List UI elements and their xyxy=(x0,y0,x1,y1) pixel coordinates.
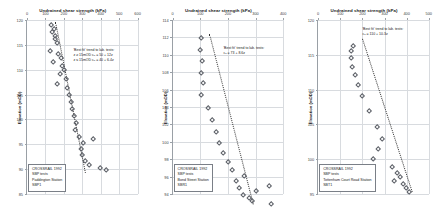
chart-2-data-point xyxy=(249,198,255,204)
chart-2-y-tick-label: 94 xyxy=(164,192,168,197)
chart-1-y-tick xyxy=(25,95,28,96)
chart-2-hgrid xyxy=(173,20,284,21)
chart-panel-bond-street: Undrained shear strength (kPa) Elevation… xyxy=(146,0,292,216)
chart-2-vgrid xyxy=(283,20,284,194)
chart-2-y-tick xyxy=(170,159,173,160)
annotation-line: cᵤ = 110 + 10.3z xyxy=(362,32,403,37)
chart-2-y-tick-label: 114 xyxy=(162,18,168,23)
chart-3-y-tick xyxy=(316,159,319,160)
chart-2-hgrid xyxy=(173,194,284,195)
chart-2-hgrid xyxy=(173,124,284,125)
chart-3-hgrid xyxy=(318,20,429,21)
chart-1-x-tick-label: 200 xyxy=(61,11,68,16)
chart-1-x-axis-title: Undrained shear strength (kPa) xyxy=(0,8,146,13)
chart-2-y-tick xyxy=(170,20,173,21)
chart-1-hgrid xyxy=(27,194,138,195)
chart-2-y-tick-label: 96 xyxy=(164,174,168,179)
chart-2-x-tick-label: 400 xyxy=(280,11,287,16)
chart-2-data-point xyxy=(197,47,203,53)
chart-1-hgrid xyxy=(27,95,138,96)
chart-3-x-tick-label: 0 xyxy=(317,11,319,16)
chart-2-y-tick xyxy=(170,177,173,178)
chart-3-x-tick-label: 500 xyxy=(426,11,433,16)
chart-3-y-axis-title: Elevation (mOD) xyxy=(308,92,313,125)
chart-2-hgrid xyxy=(173,90,284,91)
chart-3-y-tick-label: 115 xyxy=(308,52,314,57)
chart-2-plot-area: 0100200300400949698100102104106108110112… xyxy=(172,20,284,194)
chart-2-x-tick xyxy=(283,18,284,21)
chart-2-y-tick-label: 104 xyxy=(162,105,169,110)
chart-3-y-tick xyxy=(316,55,319,56)
chart-3-x-tick xyxy=(429,18,430,21)
chart-1-x-tick-label: 0 xyxy=(26,11,28,16)
chart-2-y-tick xyxy=(170,55,173,56)
chart-1-plot-area: 0100200300400500600859095100105110115120… xyxy=(26,20,138,194)
chart-2-data-point xyxy=(266,183,272,189)
chart-3-y-tick xyxy=(316,90,319,91)
chart-1-data-point xyxy=(68,99,74,105)
chart-3-data-point xyxy=(349,64,355,70)
chart-3-y-tick-label: 100 xyxy=(308,157,315,162)
chart-2-hgrid xyxy=(173,142,284,143)
chart-2-data-point xyxy=(233,178,239,184)
chart-2-y-tick-label: 108 xyxy=(162,70,169,75)
chart-3-vgrid xyxy=(429,20,430,194)
chart-1-y-tick-label: 120 xyxy=(17,18,24,23)
chart-3-y-tick xyxy=(316,124,319,125)
chart-2-data-point xyxy=(213,129,219,135)
chart-2-data-point xyxy=(229,168,235,174)
legend-line: SBP1 xyxy=(32,183,62,188)
chart-1-legend: CROSSRAIL 1992SBP testsPaddington Statio… xyxy=(28,164,66,192)
chart-3-hgrid xyxy=(318,90,429,91)
chart-2-x-axis-title: Undrained shear strength (kPa) xyxy=(146,8,292,13)
chart-3-data-point xyxy=(348,49,354,55)
chart-3-data-point xyxy=(391,178,397,184)
chart-3-data-point xyxy=(352,72,358,78)
chart-1-x-tick xyxy=(138,18,139,21)
chart-2-y-tick xyxy=(170,72,173,73)
chart-3-y-tick xyxy=(316,20,319,21)
chart-1-annotation: 'Best fit' trend to lab. tests:z ≥ 15mOD… xyxy=(73,48,114,64)
chart-3-data-point xyxy=(375,146,381,152)
chart-2-data-point xyxy=(198,92,204,98)
chart-1-y-tick-label: 85 xyxy=(19,192,23,197)
chart-3-x-tick-label: 400 xyxy=(403,11,410,16)
chart-2-trend-line xyxy=(209,34,254,205)
legend-line: SBR1 xyxy=(178,183,209,188)
chart-1-data-point xyxy=(69,106,75,112)
chart-1-hgrid xyxy=(27,119,138,120)
chart-1-x-tick-label: 500 xyxy=(116,11,123,16)
chart-2-y-tick-label: 106 xyxy=(162,87,169,92)
chart-3-y-tick xyxy=(316,194,319,195)
chart-1-y-tick-label: 90 xyxy=(19,167,23,172)
chart-1-y-tick xyxy=(25,20,28,21)
chart-2-y-tick xyxy=(170,194,173,195)
chart-3-data-point xyxy=(359,93,365,99)
chart-2-data-point xyxy=(198,70,204,76)
chart-2-data-point xyxy=(240,192,246,198)
chart-2-data-point xyxy=(209,117,215,123)
chart-3-hgrid xyxy=(318,55,429,56)
chart-3-hgrid xyxy=(318,194,429,195)
chart-3-data-point xyxy=(355,82,361,88)
chart-1-data-point xyxy=(47,48,53,54)
chart-1-hgrid xyxy=(27,20,138,21)
figure-sheet: Undrained shear strength (kPa) Elevation… xyxy=(0,0,437,216)
chart-1-y-tick xyxy=(25,45,28,46)
chart-3-data-point xyxy=(397,174,403,180)
chart-2-y-tick xyxy=(170,90,173,91)
annotation-line: z ≤ 15mOD cᵤ = 40 + 6.4z xyxy=(73,58,114,63)
chart-2-data-point xyxy=(236,185,242,191)
chart-3-data-point xyxy=(348,55,354,61)
chart-3-y-tick-label: 95 xyxy=(310,192,314,197)
chart-1-x-tick-label: 100 xyxy=(42,11,49,16)
chart-1-hgrid xyxy=(27,70,138,71)
chart-3-legend: CROSSRAIL 1992SBP testsTottenham Court R… xyxy=(319,164,375,192)
chart-1-y-tick xyxy=(25,70,28,71)
chart-2-y-tick-label: 98 xyxy=(164,157,168,162)
chart-1-y-tick xyxy=(25,119,28,120)
chart-2-data-point xyxy=(268,201,274,207)
chart-1-y-tick-label: 100 xyxy=(17,117,24,122)
chart-panel-tottenham-court-road: Undrained shear strength (kPa) Elevation… xyxy=(291,0,437,216)
chart-3-vgrid xyxy=(407,20,408,194)
